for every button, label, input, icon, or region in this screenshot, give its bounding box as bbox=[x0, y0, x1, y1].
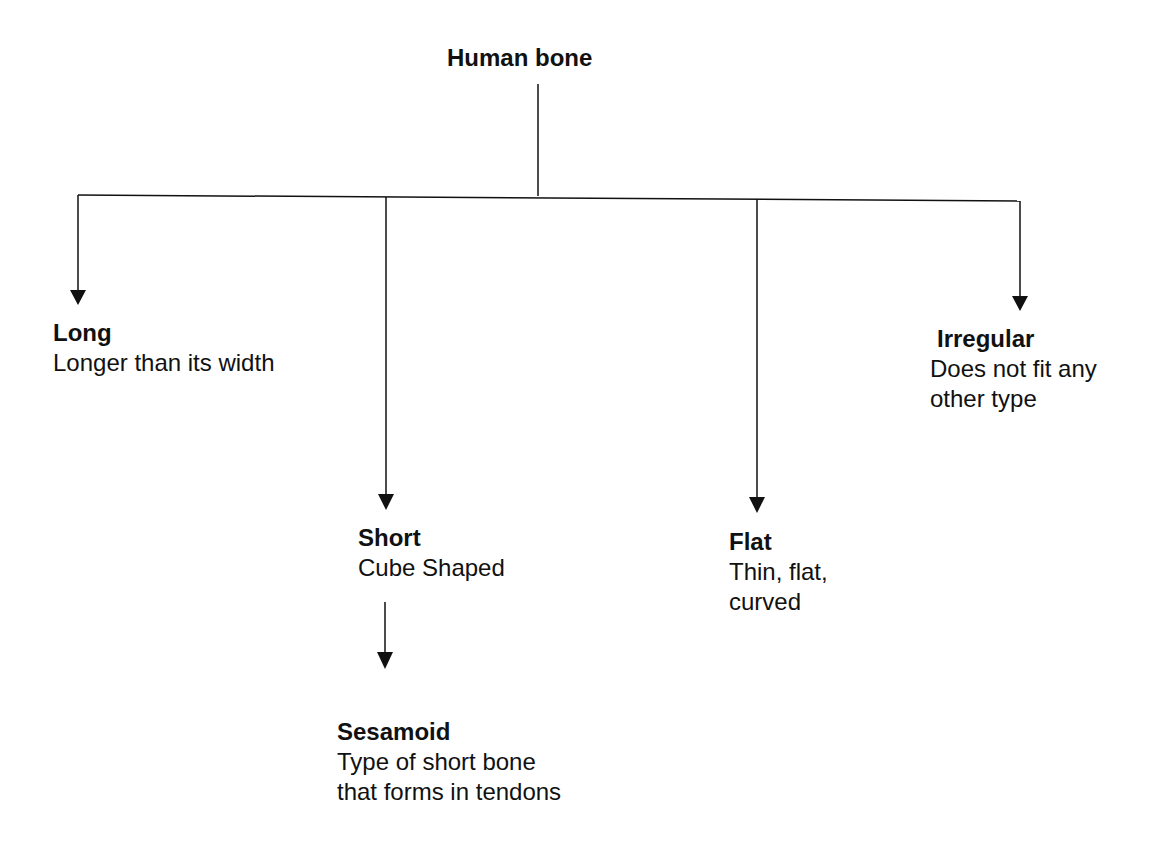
arrow-sesamoid-icon bbox=[377, 652, 393, 669]
branch-bus-line bbox=[78, 195, 1020, 201]
node-long-title: Long bbox=[53, 318, 274, 348]
arrow-long-icon bbox=[70, 290, 86, 305]
node-flat-title: Flat bbox=[729, 527, 828, 557]
node-short: Short Cube Shaped bbox=[358, 523, 505, 583]
node-flat-desc: Thin, flat, curved bbox=[729, 557, 828, 617]
arrow-flat-icon bbox=[749, 497, 765, 513]
node-long-desc: Longer than its width bbox=[53, 348, 274, 378]
node-sesamoid-desc: Type of short bone that forms in tendons bbox=[337, 747, 561, 807]
node-irregular-title: Irregular bbox=[930, 324, 1097, 354]
node-long: Long Longer than its width bbox=[53, 318, 274, 378]
arrow-short-icon bbox=[378, 494, 394, 510]
arrow-irregular-icon bbox=[1012, 296, 1028, 311]
node-short-title: Short bbox=[358, 523, 505, 553]
root-node-human-bone: Human bone bbox=[447, 44, 592, 72]
node-sesamoid-title: Sesamoid bbox=[337, 717, 561, 747]
node-irregular: Irregular Does not fit any other type bbox=[930, 324, 1097, 414]
node-short-desc: Cube Shaped bbox=[358, 553, 505, 583]
node-irregular-desc: Does not fit any other type bbox=[930, 354, 1097, 414]
node-sesamoid: Sesamoid Type of short bone that forms i… bbox=[337, 717, 561, 807]
connector-lines bbox=[0, 0, 1175, 856]
node-flat: Flat Thin, flat, curved bbox=[729, 527, 828, 617]
